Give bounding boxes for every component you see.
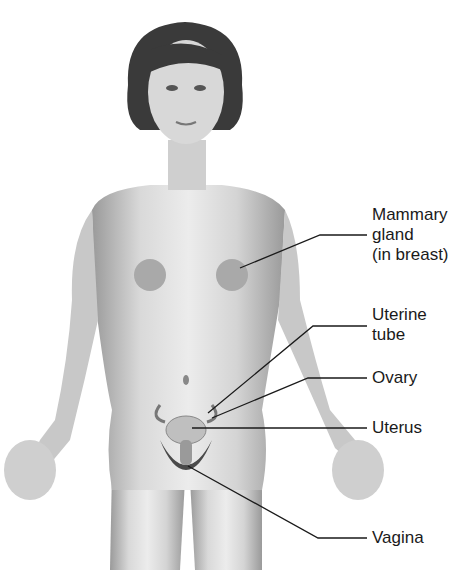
label-ovary: Ovary [372,368,417,388]
label-line: (in breast) [372,245,449,265]
right-breast [216,259,248,291]
label-line: tube [372,325,427,345]
label-line: Uterus [372,418,422,438]
left-arm [36,210,98,470]
label-vagina: Vagina [372,528,424,548]
label-line: gland [372,225,449,245]
right-arm [278,210,366,470]
label-uterine-tube: Uterine tube [372,305,427,345]
label-line: Uterine [372,305,427,325]
label-mammary-gland: Mammary gland (in breast) [372,205,449,265]
label-line: Vagina [372,528,424,548]
left-hand [4,440,56,500]
anatomy-figure [0,0,474,570]
label-uterus: Uterus [372,418,422,438]
left-breast [134,259,166,291]
right-hand [332,440,384,500]
label-line: Ovary [372,368,417,388]
label-line: Mammary [372,205,449,225]
neck [168,140,206,190]
